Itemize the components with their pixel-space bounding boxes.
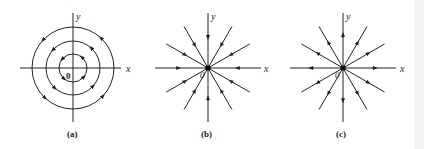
flow-arrow-icon [356, 91, 358, 94]
origin-label: 0 [200, 70, 205, 80]
x-axis-label: x [399, 63, 405, 74]
x-axis-label: x [263, 63, 269, 74]
trajectory-ray [208, 68, 250, 92]
flow-arrow-icon [183, 53, 186, 55]
flow-arrow-icon [366, 81, 369, 83]
panel-caption: (b) [201, 129, 212, 139]
flow-arrow-icon [101, 96, 103, 98]
flow-arrow-icon [43, 38, 45, 40]
y-axis-label: y [210, 11, 216, 22]
origin-label: 0 [335, 70, 340, 80]
flow-arrow-icon [53, 86, 55, 88]
flow-arrow-icon [366, 53, 369, 55]
flow-arrow-icon [221, 43, 223, 46]
trajectory-ray [184, 26, 208, 68]
trajectory-ray [343, 68, 385, 92]
trajectory-ray [343, 68, 367, 110]
x-axis-label: x [125, 63, 131, 74]
flow-arrow-icon [231, 81, 234, 83]
flow-arrow-icon [82, 57, 84, 59]
y-axis-label: y [75, 11, 81, 22]
panel-a-center: x y 0 (a) [20, 11, 131, 139]
flow-arrow-icon [328, 43, 330, 46]
flow-arrow-icon [101, 38, 103, 40]
trajectory-ray [208, 68, 232, 110]
flow-arrow-icon [328, 91, 330, 94]
flow-arrow-icon [53, 48, 55, 50]
flow-arrow-icon [221, 91, 223, 94]
panel-caption: (a) [67, 129, 78, 139]
flow-arrow-icon [183, 81, 186, 83]
flow-arrow-icon [91, 86, 93, 88]
phase-portrait-figure: x y 0 (a) x y 0 (b) x y 0 (c) [0, 0, 424, 149]
flow-arrow-icon [62, 57, 64, 59]
equilibrium-point [205, 65, 210, 70]
flow-arrow-icon [231, 53, 234, 55]
panel-caption: (c) [336, 129, 346, 139]
trajectory-ray [166, 44, 208, 68]
flow-arrow-icon [318, 81, 321, 83]
flow-arrow-icon [62, 77, 64, 79]
flow-arrow-icon [356, 43, 358, 46]
origin-label: 0 [66, 71, 71, 81]
y-axis-label: y [345, 11, 351, 22]
trajectory-ray [208, 44, 250, 68]
flow-arrow-icon [318, 53, 321, 55]
trajectory-ray [343, 44, 385, 68]
flow-arrow-icon [193, 43, 195, 46]
flow-arrow-icon [91, 48, 93, 50]
equilibrium-point [340, 65, 345, 70]
trajectory-ray [343, 26, 367, 68]
flow-arrow-icon [82, 77, 84, 79]
flow-arrow-icon [43, 96, 45, 98]
trajectory-ray [301, 44, 343, 68]
trajectory-ray [208, 26, 232, 68]
panel-b-stable-node: x y 0 (b) [155, 11, 269, 139]
panel-c-unstable-node: x y 0 (c) [290, 11, 405, 139]
trajectory-ray [319, 26, 343, 68]
flow-arrow-icon [193, 91, 195, 94]
